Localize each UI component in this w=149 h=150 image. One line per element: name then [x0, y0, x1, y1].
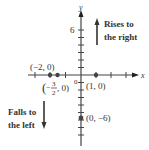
arrow-down-head-icon	[42, 122, 47, 129]
rises-line2: the right	[104, 32, 137, 42]
polynomial-graph: y 6 x (−2, 0) ( − 3	[0, 0, 149, 150]
x-axis-label: x	[140, 71, 145, 80]
arrow-up-head-icon	[95, 18, 100, 25]
label-neg3half-close: , 0)	[57, 83, 69, 93]
label-neg2-0: (−2, 0)	[30, 62, 55, 72]
label-neg3half-num: 3	[52, 80, 56, 88]
rises-annotation: Rises to the right	[95, 18, 138, 45]
falls-line2: the left	[8, 120, 35, 130]
label-neg3half-minus: −	[46, 83, 51, 92]
y-axis-label: y	[78, 3, 83, 12]
point-neg2-0	[48, 73, 52, 77]
label-neg3half-0: ( − 3 2 , 0)	[42, 80, 69, 97]
label-0-neg6: (0, −6)	[86, 113, 111, 123]
falls-line1: Falls to	[8, 107, 37, 117]
falls-annotation: Falls to the left	[8, 101, 47, 130]
point-neg3half-0	[55, 73, 59, 77]
point-1-0	[94, 73, 98, 77]
rises-line1: Rises to	[104, 19, 134, 29]
label-neg3half-den: 2	[52, 89, 56, 97]
y-tick-label-6: 6	[70, 25, 75, 35]
point-0-neg6	[79, 116, 84, 121]
x-axis-arrow-icon	[132, 73, 139, 78]
origin-label: 0	[74, 78, 78, 86]
label-1-0: (1, 0)	[86, 81, 106, 91]
